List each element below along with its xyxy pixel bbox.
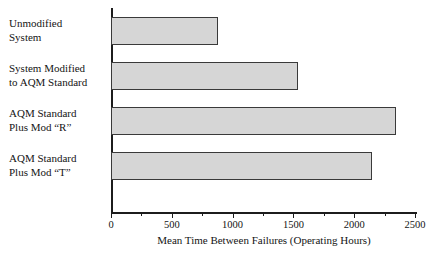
x-axis-tick-major xyxy=(172,212,173,218)
bar xyxy=(111,152,372,180)
category-label: System Modified to AQM Standard xyxy=(9,62,109,89)
x-axis-tick-minor xyxy=(263,212,264,216)
x-axis-tick-major xyxy=(293,212,294,218)
x-axis-tick-label: 500 xyxy=(164,219,180,230)
x-axis-tick-minor xyxy=(385,212,386,216)
category-axis-labels: Unmodified SystemSystem Modified to AQM … xyxy=(0,0,108,215)
bar-chart: Unmodified SystemSystem Modified to AQM … xyxy=(0,0,444,258)
x-axis-tick-major xyxy=(415,212,416,218)
bar xyxy=(111,107,396,135)
category-label: AQM Standard Plus Mod “R” xyxy=(9,107,109,134)
x-axis-tick-label: 0 xyxy=(108,219,113,230)
x-axis-tick-major xyxy=(111,212,112,218)
x-axis-tick-label: 2000 xyxy=(344,219,365,230)
bar xyxy=(111,62,298,90)
x-axis-title: Mean Time Between Failures (Operating Ho… xyxy=(111,234,417,246)
x-axis-tick-minor xyxy=(141,212,142,216)
x-axis-tick-major xyxy=(354,212,355,218)
x-axis-line xyxy=(111,212,417,214)
category-label: Unmodified System xyxy=(9,17,109,44)
x-axis-tick-label: 1000 xyxy=(222,219,243,230)
x-axis-tick-minor xyxy=(202,212,203,216)
category-label: AQM Standard Plus Mod “T” xyxy=(9,152,109,179)
bar xyxy=(111,17,218,45)
x-axis-tick-label: 2500 xyxy=(405,219,426,230)
plot-area xyxy=(111,8,415,213)
x-axis-tick-major xyxy=(233,212,234,218)
x-axis-tick-label: 1500 xyxy=(283,219,304,230)
x-axis-tick-minor xyxy=(324,212,325,216)
